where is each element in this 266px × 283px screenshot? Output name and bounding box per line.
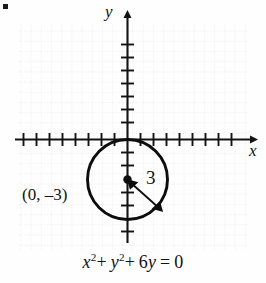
equation-term-x: x — [83, 252, 91, 272]
equation-term-y2: y — [148, 252, 156, 272]
equation-equals: = — [160, 252, 170, 272]
math-figure: y x 3 (0, –3) x2+ y2+ 6y = 0 — [0, 0, 266, 283]
equation-caption: x2+ y2+ 6y = 0 — [0, 252, 266, 273]
axis-label-x: x — [249, 142, 257, 159]
equation-term-y: y — [111, 252, 119, 272]
arrow-up-icon — [124, 10, 132, 18]
equation-plus-2: + — [125, 252, 135, 272]
equation-coefficient: 6 — [139, 252, 148, 272]
center-point-label: (0, –3) — [22, 186, 67, 203]
equation-plus-1: + — [97, 252, 107, 272]
grid-lines — [18, 22, 248, 250]
coordinate-plane — [0, 0, 266, 283]
equation-rhs: 0 — [174, 252, 183, 272]
radius-label: 3 — [146, 168, 156, 187]
axis-label-y: y — [105, 3, 113, 20]
